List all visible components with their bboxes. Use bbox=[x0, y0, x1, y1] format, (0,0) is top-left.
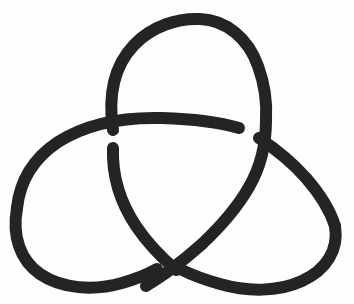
trefoil-knot-canvas bbox=[0, 0, 354, 304]
knot-diagram-figure: Trefoil Knot A hand-drawn line diagram o… bbox=[0, 0, 354, 304]
